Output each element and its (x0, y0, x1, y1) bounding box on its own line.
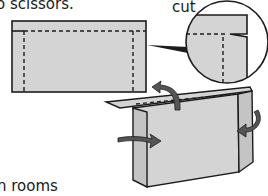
folded-stand (106, 81, 260, 187)
flat-sheet (12, 21, 146, 92)
cut-detail-magnifier (180, 1, 268, 90)
pointer-wedge (147, 45, 188, 53)
diagram-canvas (0, 0, 268, 196)
